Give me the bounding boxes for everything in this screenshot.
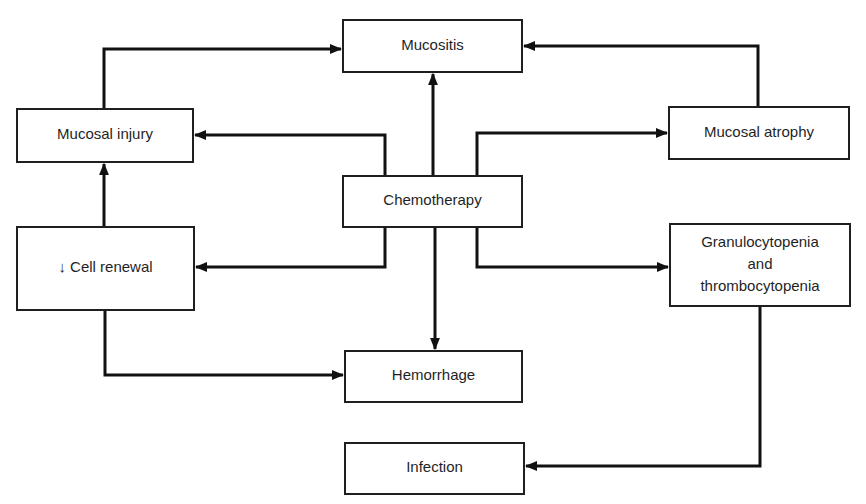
node-cell-renewal: ↓ Cell renewal (17, 227, 194, 310)
node-mucosal-atrophy: Mucosal atrophy (669, 107, 849, 159)
node-label: Infection (406, 458, 463, 475)
arrow-cell-renewal-to-hemorrhage (105, 310, 343, 375)
node-label: and (747, 255, 772, 272)
arrow-chemotherapy-to-mucosal-atrophy (477, 133, 667, 176)
arrow-mucosal-injury-to-mucositis (104, 49, 341, 109)
arrow-chemotherapy-to-granulocytopenia (477, 227, 668, 267)
arrow-mucosal-atrophy-to-mucositis (524, 46, 758, 107)
node-infection: Infection (345, 443, 524, 494)
node-label: thrombocytopenia (700, 277, 820, 294)
node-label: Mucositis (401, 36, 464, 53)
node-hemorrhage: Hemorrhage (345, 351, 522, 402)
node-granulocytopenia: Granulocytopeniaandthrombocytopenia (670, 224, 850, 306)
flow-diagram: MucositisMucosal injuryMucosal atrophyCh… (0, 0, 866, 504)
arrow-granulocytopenia-to-infection (526, 306, 760, 466)
node-label: Hemorrhage (392, 366, 475, 383)
node-label: Chemotherapy (383, 191, 482, 208)
node-label: Mucosal atrophy (704, 123, 815, 140)
arrow-chemotherapy-to-mucosal-injury (195, 135, 385, 176)
node-label: Mucosal injury (57, 125, 153, 142)
node-mucositis: Mucositis (343, 20, 522, 72)
node-mucosal-injury: Mucosal injury (17, 109, 193, 162)
node-label: ↓ Cell renewal (58, 258, 152, 275)
node-chemotherapy: Chemotherapy (343, 176, 522, 227)
node-label: Granulocytopenia (701, 233, 819, 250)
arrow-chemotherapy-to-cell-renewal (196, 227, 385, 267)
